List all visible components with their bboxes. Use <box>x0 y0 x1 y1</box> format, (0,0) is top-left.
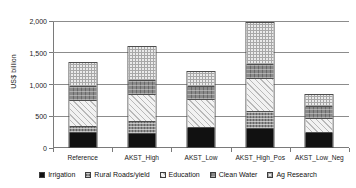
bar-segment[interactable] <box>128 95 155 122</box>
bar-group <box>290 21 349 148</box>
legend-label: Rural Roads/yield <box>94 171 149 178</box>
stacked-bar[interactable] <box>68 62 97 148</box>
x-axis-tick-labels: ReferenceAKST_HighAKST_LowAKST_High_PosA… <box>53 152 349 164</box>
x-axis-tick-label: AKST_Low <box>185 154 218 161</box>
bar-segment[interactable] <box>69 87 96 101</box>
y-axis-tick-label: 1,000 <box>29 81 47 88</box>
legend-swatch-icon <box>39 172 45 178</box>
legend-swatch-icon <box>85 172 91 178</box>
bar-segment[interactable] <box>306 119 333 133</box>
bar-group <box>53 21 112 148</box>
bar-segment[interactable] <box>247 23 274 65</box>
bar-segment[interactable] <box>306 133 333 147</box>
y-axis-tick-label: 0 <box>43 145 47 152</box>
x-axis-tick-mark <box>53 148 54 152</box>
bar-group <box>231 21 290 148</box>
bar-segment[interactable] <box>69 101 96 127</box>
legend-label: Irrigation <box>48 171 75 178</box>
x-axis-tick-mark <box>349 148 350 152</box>
bar-segment[interactable] <box>247 112 274 129</box>
y-axis-tick-label: 1,500 <box>29 49 47 56</box>
legend-item[interactable]: Rural Roads/yield <box>85 171 149 178</box>
y-axis-title: US$ billion <box>10 42 17 102</box>
bar-segment[interactable] <box>247 65 274 79</box>
legend-label: Education <box>169 171 200 178</box>
bar-segment[interactable] <box>187 100 214 128</box>
x-axis-tick-mark <box>112 148 113 152</box>
bar-segment[interactable] <box>128 47 155 81</box>
bar-segment[interactable] <box>306 95 333 107</box>
bar-segment[interactable] <box>306 107 333 119</box>
bar-segment[interactable] <box>128 122 155 134</box>
bar-segment[interactable] <box>247 129 274 147</box>
x-axis-tick-label: AKST_High <box>125 154 159 161</box>
y-axis-tick-label: 2,000 <box>29 18 47 25</box>
bar-segment[interactable] <box>187 128 214 147</box>
bar-segment[interactable] <box>247 79 274 112</box>
stacked-bar[interactable] <box>127 46 156 148</box>
y-axis-tick-label: 500 <box>35 113 47 120</box>
bar-segment[interactable] <box>187 87 214 100</box>
legend-item[interactable]: Ag Research <box>267 171 316 178</box>
bar-segment[interactable] <box>69 133 96 147</box>
legend-label: Clean Water <box>219 171 258 178</box>
legend-item[interactable]: Clean Water <box>210 171 258 178</box>
plot-area: 05001,0001,5002,000 <box>53 21 349 148</box>
chart-legend: IrrigationRural Roads/yieldEducationClea… <box>0 171 356 178</box>
x-axis-tick-label: Reference <box>67 154 97 161</box>
bar-segment[interactable] <box>187 72 214 87</box>
legend-swatch-icon <box>267 172 273 178</box>
x-axis-tick-label: AKST_High_Pos <box>235 154 284 161</box>
stacked-bar[interactable] <box>246 22 275 148</box>
x-axis-tick-mark <box>171 148 172 152</box>
x-axis-tick-mark <box>231 148 232 152</box>
stacked-bar[interactable] <box>186 71 215 148</box>
legend-label: Ag Research <box>276 171 316 178</box>
bar-segment[interactable] <box>128 134 155 147</box>
x-axis-tick-label: AKST_Low_Neg <box>295 154 344 161</box>
legend-swatch-icon <box>160 172 166 178</box>
legend-swatch-icon <box>210 172 216 178</box>
x-axis-tick-mark <box>290 148 291 152</box>
legend-item[interactable]: Education <box>160 171 200 178</box>
bar-segment[interactable] <box>128 81 155 95</box>
stacked-bar-chart: US$ billion 05001,0001,5002,000 Referenc… <box>0 0 356 188</box>
bar-group <box>112 21 171 148</box>
bar-series-container <box>53 21 349 148</box>
legend-item[interactable]: Irrigation <box>39 171 75 178</box>
bar-group <box>171 21 230 148</box>
bar-segment[interactable] <box>69 63 96 86</box>
stacked-bar[interactable] <box>305 94 334 148</box>
